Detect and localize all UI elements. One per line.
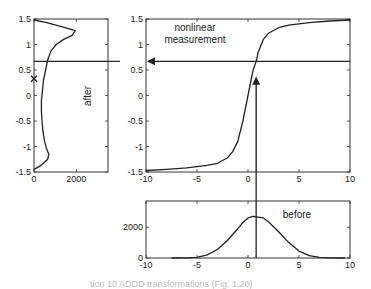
figure-caption: tion 10 ADDD transformations (Fig. 1.20) — [90, 279, 253, 289]
annotation-line2: measurement — [164, 34, 225, 45]
annotation-line1: nonlinear — [174, 22, 216, 33]
before-label: before — [283, 209, 312, 220]
x-tick-label: -5 — [193, 260, 201, 270]
data-line — [34, 20, 75, 169]
axes-frame — [34, 19, 108, 172]
x-tick-label: 0 — [245, 260, 250, 270]
x-tick-label: 0 — [245, 174, 250, 184]
y-tick-label: 0.5 — [130, 65, 143, 75]
x-tick-label: 5 — [296, 260, 301, 270]
x-tick-label: 10 — [345, 174, 355, 184]
x-tick-label: 0 — [31, 174, 36, 184]
x-tick-label: 5 — [296, 174, 301, 184]
y-tick-label: 0 — [138, 91, 143, 101]
y-tick-label: 1.5 — [18, 14, 31, 24]
y-tick-label: 0.5 — [18, 65, 31, 75]
x-tick-label: -5 — [193, 174, 201, 184]
nonlinear-measurement-plot: -10-50510-1.5-1-0.500.511.5nonlinearmeas… — [108, 14, 355, 184]
y-tick-label: 2000 — [123, 222, 143, 232]
after-histogram-plot: 02000-1.5-1-0.500.511.5after — [15, 14, 108, 184]
y-tick-label: -0.5 — [15, 116, 31, 126]
after-label: after — [82, 85, 93, 106]
y-tick-label: 0 — [26, 91, 31, 101]
x-tick-label: 2000 — [66, 174, 86, 184]
y-tick-label: 1 — [26, 40, 31, 50]
y-tick-label: 1 — [138, 40, 143, 50]
y-tick-label: -1.5 — [127, 167, 143, 177]
data-line — [172, 216, 345, 258]
before-histogram-plot: -10-5051002000before — [123, 172, 355, 270]
y-tick-label: 0 — [138, 253, 143, 263]
x-tick-label: 10 — [345, 260, 355, 270]
y-tick-label: -1 — [23, 142, 31, 152]
y-tick-label: -0.5 — [127, 116, 143, 126]
y-tick-label: -1 — [135, 142, 143, 152]
axes-frame — [146, 201, 350, 258]
y-tick-label: -1.5 — [15, 167, 31, 177]
y-tick-label: 1.5 — [130, 14, 143, 24]
